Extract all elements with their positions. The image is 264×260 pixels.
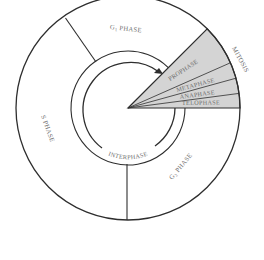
g1-phase-label: G1 PHASE [110,23,143,35]
g2-phase-label: G2 PHASE [167,152,194,182]
interphase-arrow-arc-tail [155,108,175,146]
mitosis-label: MITOSIS [231,45,251,73]
divider-g1-s [66,18,97,62]
interphase-label: INTERPHASE [108,150,149,161]
s-phase-label: S PHASE [40,114,56,143]
telophase-label: TELOPHASE [182,98,220,106]
cell-cycle-diagram: G1 PHASE S PHASE G2 PHASE MITOSIS INTERP… [0,0,264,260]
